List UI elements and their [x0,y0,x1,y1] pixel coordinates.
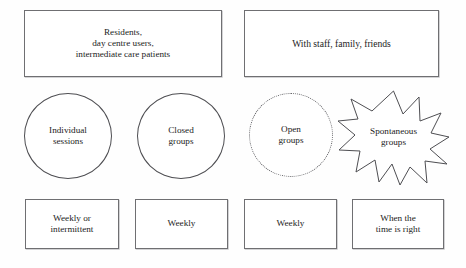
participants-staff-box: With staff, family, friends [244,10,439,77]
frequency-weekly-open-box: Weekly [244,199,337,249]
frequency-when-time-is-right-box: When the time is right [352,199,444,249]
spontaneous-groups-label: Spontaneous groups [366,126,421,148]
open-groups-circle: Open groups [249,93,333,177]
open-groups-label: Open groups [274,124,307,146]
frequency-weekly-or-intermittent-box: Weekly or intermittent [25,199,119,249]
individual-sessions-circle: Individual sessions [24,93,112,179]
individual-sessions-label: Individual sessions [45,125,91,147]
participants-residents-box: Residents, day centre users, intermediat… [24,10,222,77]
diagram-canvas: Residents, day centre users, intermediat… [0,0,466,268]
spontaneous-groups-starburst: Spontaneous groups [337,88,450,186]
frequency-when-time-is-right-label: When the time is right [372,213,424,235]
frequency-weekly-closed-box: Weekly [135,199,228,249]
frequency-weekly-or-intermittent-label: Weekly or intermittent [47,213,98,235]
participants-staff-label: With staff, family, friends [288,38,395,50]
closed-groups-circle: Closed groups [137,93,225,179]
frequency-weekly-closed-label: Weekly [164,218,200,229]
participants-residents-label: Residents, day centre users, intermediat… [72,27,174,61]
closed-groups-label: Closed groups [164,125,198,147]
frequency-weekly-open-label: Weekly [273,218,309,229]
